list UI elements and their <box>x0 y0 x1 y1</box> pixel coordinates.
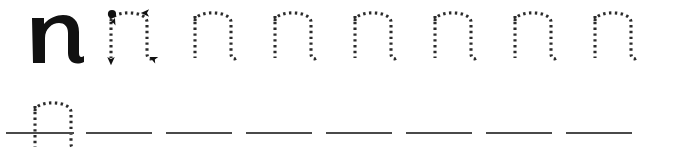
handwriting-worksheet <box>0 0 682 147</box>
writing-line-blank <box>166 132 232 134</box>
dotted-letter-n <box>28 96 86 147</box>
letter-glyph <box>268 6 326 68</box>
dotted-letter-n <box>588 6 646 68</box>
stroke-start-dot <box>108 10 116 18</box>
letter-glyph <box>28 6 86 68</box>
letter-glyph <box>188 6 246 68</box>
writing-line-blank <box>566 132 632 134</box>
stroke-arrow-stem-down <box>107 57 114 65</box>
dotted-letter-n <box>188 6 246 68</box>
stroke-arrow-leg-end <box>148 54 158 64</box>
dotted-letter-n <box>428 6 486 68</box>
dotted-letter-n <box>268 6 326 68</box>
letter-glyph <box>104 6 166 72</box>
dotted-letter-n <box>348 6 406 68</box>
writing-line-blank <box>326 132 392 134</box>
writing-line-blank <box>246 132 312 134</box>
guided-letter-n <box>104 6 166 72</box>
writing-line-blank <box>86 132 152 134</box>
dotted-letter-n <box>508 6 566 68</box>
letter-glyph <box>508 6 566 68</box>
writing-line-traced <box>6 132 74 134</box>
letter-glyph <box>348 6 406 68</box>
letter-glyph <box>588 6 646 68</box>
practice-row-top <box>0 0 682 80</box>
writing-line-blank <box>486 132 552 134</box>
model-letter-n <box>28 6 86 68</box>
writing-line-blank <box>406 132 472 134</box>
letter-glyph <box>428 6 486 68</box>
practice-row-bottom <box>0 80 682 147</box>
letter-glyph <box>28 96 86 147</box>
